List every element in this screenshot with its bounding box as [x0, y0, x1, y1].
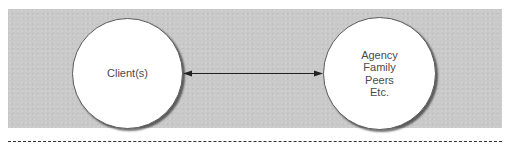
dashed-divider — [8, 141, 502, 142]
others-node: Agency Family Peers Etc. — [323, 17, 436, 130]
client-node: Client(s) — [72, 18, 183, 129]
bidirectional-arrow — [183, 68, 323, 80]
arrowhead-right-icon — [314, 71, 323, 77]
others-node-label: Agency Family Peers Etc. — [361, 49, 398, 99]
arrowhead-left-icon — [183, 71, 192, 77]
client-node-label: Client(s) — [107, 67, 148, 80]
